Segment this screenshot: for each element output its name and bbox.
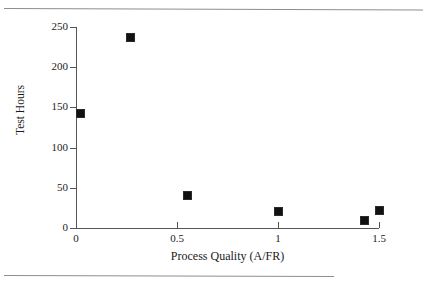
data-point [375, 206, 384, 215]
y-tick-label-wrap: 150 [26, 101, 68, 112]
y-tick-label-wrap: 200 [26, 61, 68, 72]
x-tick-label-wrap: 0.5 [157, 232, 197, 244]
y-tick-label: 100 [32, 142, 68, 153]
x-tick-label: 1 [258, 232, 298, 244]
figure-container: 050100150200250 00.511.5 Test Hours Proc… [0, 0, 427, 284]
x-tick-mark [76, 222, 77, 228]
x-tick-label: 0 [56, 232, 96, 244]
y-tick-label: 200 [32, 61, 68, 72]
x-tick-mark [177, 222, 178, 228]
x-axis-label: Process Quality (A/FR) [76, 249, 379, 263]
data-point [183, 191, 192, 200]
y-tick-label: 50 [32, 182, 68, 193]
y-tick-label: 250 [32, 21, 68, 32]
data-point [126, 33, 135, 42]
y-tick-label-wrap: 250 [26, 21, 68, 32]
y-tick-mark [70, 67, 76, 68]
y-tick-mark [70, 188, 76, 189]
y-tick-mark [70, 228, 76, 229]
x-tick-mark [379, 222, 380, 228]
x-tick-label-wrap: 0 [56, 232, 96, 244]
x-tick-label-wrap: 1 [258, 232, 298, 244]
y-tick-mark [70, 148, 76, 149]
y-axis-line [76, 27, 77, 229]
y-tick-label-wrap: 100 [26, 142, 68, 153]
x-tick-label: 1.5 [359, 232, 399, 244]
x-tick-label: 0.5 [157, 232, 197, 244]
y-tick-mark [70, 27, 76, 28]
y-axis-label: Test Hours [14, 62, 26, 158]
y-tick-label-wrap: 50 [26, 182, 68, 193]
y-tick-mark [70, 107, 76, 108]
data-point [274, 207, 283, 216]
x-axis-line [76, 228, 379, 229]
x-tick-label-wrap: 1.5 [359, 232, 399, 244]
data-point [76, 109, 85, 118]
x-tick-mark [278, 222, 279, 228]
scatter-plot: 050100150200250 00.511.5 Test Hours Proc… [0, 0, 427, 284]
y-tick-label: 150 [32, 101, 68, 112]
data-point [360, 216, 369, 225]
